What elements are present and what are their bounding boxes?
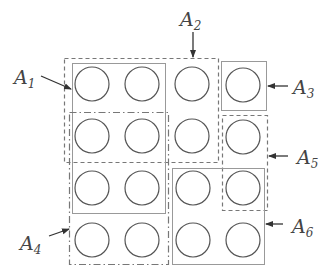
label-a1-base: A — [14, 66, 28, 88]
circle-r3c1 — [75, 171, 109, 205]
label-a5: A5 — [297, 148, 318, 170]
circle-r4c3 — [176, 223, 210, 257]
label-a6: A6 — [292, 217, 313, 239]
region-a4-box — [70, 113, 169, 265]
label-a1: A1 — [14, 68, 35, 90]
label-a2-base: A — [180, 8, 194, 30]
circle-r1c4 — [226, 68, 260, 102]
arrow-a1 — [41, 76, 71, 89]
label-a4-base: A — [20, 232, 34, 254]
circle-r3c3 — [176, 171, 210, 205]
label-a3-base: A — [293, 76, 307, 98]
label-a6-base: A — [292, 215, 306, 237]
label-a5-base: A — [297, 146, 311, 168]
circle-r2c2 — [125, 119, 159, 153]
circle-r1c1 — [75, 67, 109, 101]
label-a6-sub: 6 — [306, 226, 314, 240]
label-a4: A4 — [20, 234, 41, 256]
label-a2-sub: 2 — [194, 19, 202, 33]
circle-r3c2 — [125, 171, 159, 205]
region-a6-box — [173, 169, 265, 265]
label-a3-sub: 3 — [307, 87, 315, 101]
region-a1-box — [73, 64, 166, 214]
region-a2-box — [65, 59, 219, 163]
circle-r4c4 — [226, 223, 260, 257]
arrow-a4 — [49, 229, 69, 236]
label-a4-sub: 4 — [34, 243, 42, 257]
circle-r2c3 — [175, 119, 209, 153]
circle-r2c1 — [75, 119, 109, 153]
label-a2: A2 — [180, 10, 201, 32]
circle-r1c2 — [125, 67, 159, 101]
circle-r2c4 — [226, 120, 260, 154]
circle-r4c2 — [125, 223, 159, 257]
label-a1-sub: 1 — [28, 77, 36, 91]
diagram-canvas — [0, 0, 331, 274]
circle-r1c3 — [175, 67, 209, 101]
region-a5-box — [223, 116, 268, 211]
label-a5-sub: 5 — [311, 157, 319, 171]
label-a3: A3 — [293, 78, 314, 100]
circle-r3c4 — [226, 171, 260, 205]
circle-r4c1 — [75, 223, 109, 257]
